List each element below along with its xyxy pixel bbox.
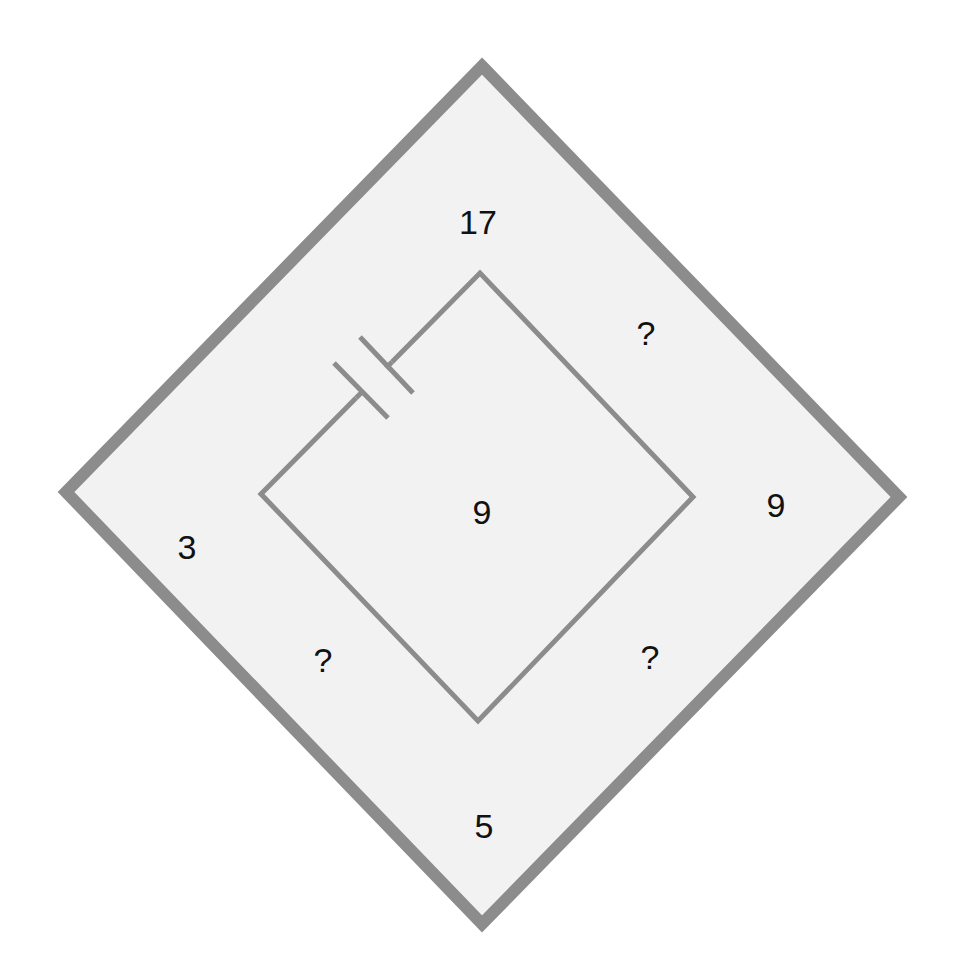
label-right: 9 — [767, 488, 786, 522]
label-top: 17 — [459, 205, 497, 239]
label-lower-right: ? — [641, 640, 660, 674]
label-bottom: 5 — [475, 809, 494, 843]
diamond-puzzle: 17 ? 9 9 3 ? ? 5 — [0, 0, 956, 977]
label-lower-left: ? — [314, 643, 333, 677]
label-upper-right: ? — [637, 316, 656, 350]
label-left: 3 — [178, 530, 197, 564]
label-center: 9 — [473, 495, 492, 529]
